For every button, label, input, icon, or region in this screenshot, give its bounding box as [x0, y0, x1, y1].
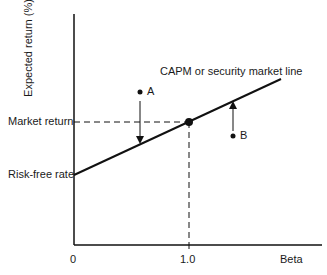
- point-a-label: A: [147, 85, 154, 97]
- market-return-label: Market return: [8, 115, 73, 127]
- point-a: [138, 90, 143, 95]
- capm-diagram: Expected return (%) Market return Risk-f…: [0, 0, 327, 275]
- x-axis-label: Beta: [280, 253, 303, 265]
- security-market-line: [74, 79, 281, 175]
- y-axis-label: Expected return (%): [22, 0, 34, 98]
- sml-label: CAPM or security market line: [160, 65, 302, 77]
- x-tick-1: 1.0: [180, 253, 195, 265]
- risk-free-label: Risk-free rate: [8, 168, 74, 180]
- x-tick-0: 0: [70, 253, 76, 265]
- market-point: [185, 118, 193, 126]
- diagram-canvas: [0, 0, 327, 275]
- point-b-label: B: [240, 129, 247, 141]
- point-b: [231, 134, 236, 139]
